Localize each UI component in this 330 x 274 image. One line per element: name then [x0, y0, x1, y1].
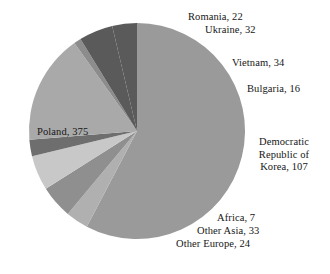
slice-label-bulgaria: Bulgaria, 16 [247, 83, 300, 96]
pie-chart: Poland, 375 Romania, 22 Ukraine, 32 Viet… [0, 0, 330, 274]
dprk-label-line-1: Democratic [259, 136, 309, 147]
slice-label-other-europe: Other Europe, 24 [176, 238, 250, 251]
dprk-label-line-3: Korea, 107 [260, 161, 308, 172]
slice-label-romania: Romania, 22 [188, 11, 243, 24]
slice-label-other-asia: Other Asia, 33 [197, 225, 259, 238]
slice-label-africa: Africa, 7 [217, 212, 255, 225]
slice-label-democratic-republic-of-korea: Democratic Republic of Korea, 107 [249, 136, 319, 174]
slice-label-ukraine: Ukraine, 32 [205, 24, 256, 37]
slice-label-poland: Poland, 375 [37, 126, 88, 139]
slice-label-vietnam: Vietnam, 34 [232, 57, 284, 70]
dprk-label-line-2: Republic of [259, 149, 309, 160]
